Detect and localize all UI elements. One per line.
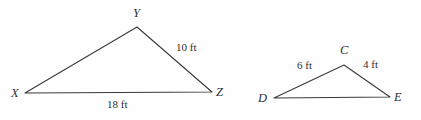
side-length-dc: 6 ft (297, 60, 312, 71)
vertex-label-x: X (11, 87, 19, 100)
vertex-label-z: Z (216, 86, 223, 99)
geometry-figure: X Y Z 10 ft 18 ft D C E 6 ft 4 ft (0, 0, 421, 120)
vertex-label-c: C (340, 44, 348, 57)
vertex-label-e: E (394, 91, 402, 104)
vertex-label-y: Y (133, 7, 140, 20)
side-length-ce: 4 ft (363, 59, 378, 70)
vertex-label-d: D (258, 92, 267, 105)
side-length-xz: 18 ft (107, 99, 127, 110)
side-length-yz: 10 ft (176, 42, 196, 53)
triangle-xyz-outline (25, 27, 212, 93)
figure-canvas (0, 0, 421, 120)
